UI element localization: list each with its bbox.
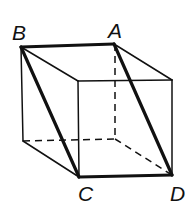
cube-svg: B A C D [0,0,185,217]
label-D: D [170,182,185,205]
edge-AD [114,44,172,175]
edge-front-left [78,81,79,177]
cube-diagram: B A C D [0,0,185,217]
hidden-edge-bottom-back [23,139,115,141]
label-C: C [78,182,94,205]
label-B: B [12,21,26,44]
edge-CD [79,175,172,177]
edge-B-back-bottom-left [21,47,23,141]
edge-front-top [78,80,172,81]
edge-BA [21,44,114,47]
label-A: A [106,19,122,42]
